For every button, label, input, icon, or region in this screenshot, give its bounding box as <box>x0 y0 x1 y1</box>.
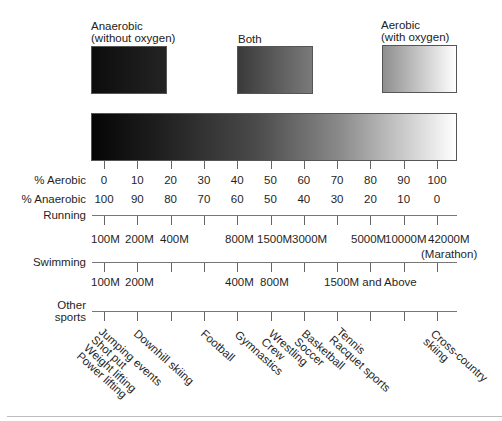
tick-mark <box>104 312 105 321</box>
tick-mark <box>104 263 105 272</box>
swimming-label: Swimming <box>0 256 86 268</box>
other-sports-label-line1: Other <box>0 299 86 311</box>
aerobic-value: 70 <box>322 174 352 186</box>
tick-mark <box>204 216 205 225</box>
swimming-100m: 100M <box>91 276 120 288</box>
aerobic-value: 30 <box>189 174 219 186</box>
tick-mark <box>137 216 138 225</box>
tick-mark <box>370 161 371 169</box>
tick-mark <box>304 263 305 272</box>
anaerobic-value: 40 <box>289 193 319 205</box>
bottom-divider <box>7 416 502 417</box>
aerobic-value: 80 <box>355 174 385 186</box>
running-axis <box>92 215 457 216</box>
tick-mark <box>104 161 105 169</box>
anaerobic-swatch <box>91 46 167 94</box>
tick-mark <box>337 216 338 225</box>
anaerobic-value: 80 <box>156 193 186 205</box>
tick-mark <box>204 161 205 169</box>
aerobic-value: 10 <box>122 174 152 186</box>
running-800m: 800M <box>225 233 254 245</box>
tick-mark <box>404 216 405 225</box>
swimming-1500m-and-above: 1500M and Above <box>324 276 417 288</box>
running-42000m: 42000M <box>428 233 470 245</box>
aerobic-title-line1: Aerobic <box>381 19 449 31</box>
aerobic-title-line2: (with oxygen) <box>381 31 449 43</box>
running-100m: 100M <box>91 233 120 245</box>
aerobic-value: 40 <box>222 174 252 186</box>
tick-mark <box>370 216 371 225</box>
tick-mark <box>271 263 272 272</box>
aerobic-gradient-bar <box>91 113 457 161</box>
aerobic-value: 0 <box>89 174 119 186</box>
tick-mark <box>104 216 105 225</box>
anaerobic-value: 0 <box>422 193 452 205</box>
tick-mark <box>271 161 272 169</box>
anaerobic-title-line2: (without oxygen) <box>91 32 175 44</box>
aerobic-value: 50 <box>256 174 286 186</box>
anaerobic-title: Anaerobic (without oxygen) <box>91 20 175 44</box>
both-title: Both <box>238 33 262 45</box>
tick-mark <box>437 161 438 169</box>
anaerobic-value: 10 <box>389 193 419 205</box>
tick-mark <box>171 263 172 272</box>
tick-mark <box>171 216 172 225</box>
tick-mark <box>437 216 438 225</box>
both-swatch <box>237 46 313 94</box>
tick-mark <box>337 263 338 272</box>
tick-mark <box>437 263 438 272</box>
running-1500m: 1500M <box>257 233 292 245</box>
tick-mark <box>404 263 405 272</box>
running-5000m: 5000M <box>351 233 386 245</box>
tick-mark <box>137 263 138 272</box>
running-label: Running <box>0 209 86 221</box>
running-10000m: 10000M <box>385 233 427 245</box>
tick-mark <box>370 263 371 272</box>
aerobic-value: 100 <box>422 174 452 186</box>
tick-mark <box>237 161 238 169</box>
anaerobic-value: 30 <box>322 193 352 205</box>
tick-mark <box>337 312 338 321</box>
anaerobic-scale-label: % Anaerobic <box>0 193 86 205</box>
tick-mark <box>337 161 338 169</box>
tick-mark <box>370 312 371 321</box>
sport-cross-country-skiing: Cross-country skiing <box>421 328 489 392</box>
sport-football: Football <box>199 328 237 364</box>
anaerobic-value: 50 <box>256 193 286 205</box>
running-3000m: 3000M <box>292 233 327 245</box>
running-400m: 400M <box>160 233 189 245</box>
anaerobic-value: 100 <box>89 193 119 205</box>
swimming-axis <box>92 262 457 263</box>
aerobic-title: Aerobic (with oxygen) <box>381 19 449 43</box>
anaerobic-value: 90 <box>122 193 152 205</box>
anaerobic-value: 60 <box>222 193 252 205</box>
tick-mark <box>237 263 238 272</box>
swimming-200m: 200M <box>125 276 154 288</box>
tick-mark <box>137 312 138 321</box>
other-sports-label-line2: sports <box>0 311 86 323</box>
tick-mark <box>404 161 405 169</box>
anaerobic-value: 70 <box>189 193 219 205</box>
tick-mark <box>171 161 172 169</box>
aerobic-value: 60 <box>289 174 319 186</box>
tick-mark <box>271 312 272 321</box>
tick-mark <box>137 161 138 169</box>
tick-mark <box>171 312 172 321</box>
tick-mark <box>304 216 305 225</box>
running-marathon-note: (Marathon) <box>421 248 477 260</box>
anaerobic-title-line1: Anaerobic <box>91 20 175 32</box>
tick-mark <box>271 216 272 225</box>
other-sports-axis <box>92 311 457 312</box>
running-200m: 200M <box>125 233 154 245</box>
tick-mark <box>437 312 438 321</box>
aerobic-swatch <box>382 45 457 93</box>
tick-mark <box>204 263 205 272</box>
tick-mark <box>237 312 238 321</box>
tick-mark <box>237 216 238 225</box>
swimming-800m: 800M <box>260 276 289 288</box>
tick-mark <box>304 161 305 169</box>
tick-mark <box>204 312 205 321</box>
tick-mark <box>304 312 305 321</box>
aerobic-value: 90 <box>389 174 419 186</box>
aerobic-value: 20 <box>156 174 186 186</box>
